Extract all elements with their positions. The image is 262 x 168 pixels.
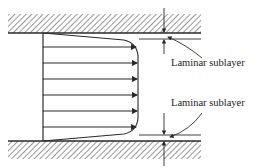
velocity-arrows — [43, 47, 137, 127]
velocity-profile-curve — [43, 33, 138, 141]
bottom-sublayer-label: Laminar sublayer — [171, 97, 245, 108]
diagram-canvas: Laminar sublayer Laminar sublayer — [0, 0, 262, 168]
velocity-profile-figure — [0, 0, 262, 168]
bottom-wall — [8, 141, 201, 159]
top-wall — [8, 14, 201, 33]
top-sublayer-label: Laminar sublayer — [171, 57, 245, 68]
